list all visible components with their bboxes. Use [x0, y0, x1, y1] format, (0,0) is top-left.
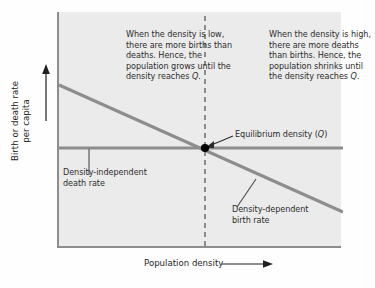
high-density-note-line4: population shrinks until [269, 61, 363, 71]
high-density-note-line2: there are more deaths [269, 40, 359, 50]
high-density-note-line5-pre: the density reaches [269, 71, 351, 81]
birth-rate-label-line2: birth rate [232, 215, 270, 225]
low-density-note-line5-post: . [198, 71, 201, 81]
low-density-note: When the density is low, there are more … [126, 29, 248, 82]
y-axis-title-line1: Birth or death rate [10, 56, 21, 186]
low-density-note-line3: deaths. Hence, the [126, 50, 202, 60]
death-rate-label-line2: death rate [63, 178, 105, 188]
equilibrium-label-pre: Equilibrium density ( [235, 129, 318, 139]
low-density-note-line5-pre: density reaches [126, 71, 192, 81]
equilibrium-point-marker [201, 144, 209, 152]
x-axis-arrow-icon [222, 258, 274, 270]
high-density-note-line3: than births. Hence, the [269, 50, 361, 60]
leader-line-birth-rate [237, 179, 256, 207]
death-rate-label-line1: Density-independent [63, 167, 147, 177]
y-axis-title-line2: per capita [21, 56, 32, 186]
y-axis-title: Birth or death rate per capita [10, 56, 32, 186]
low-density-note-line4: population grows until the [126, 61, 231, 71]
equilibrium-label: Equilibrium density (Q) [235, 129, 355, 140]
low-density-note-line2: there are more births than [126, 40, 232, 50]
death-rate-label: Density-independent death rate [63, 167, 183, 188]
high-density-note-line5-post: . [357, 71, 360, 81]
x-axis-title: Population density [144, 258, 223, 268]
high-density-note-line1: When the density is high, [269, 29, 371, 39]
y-axis-arrow-icon [41, 63, 51, 121]
birth-rate-label: Density-dependent birth rate [232, 204, 342, 225]
birth-rate-label-line1: Density-dependent [232, 204, 308, 214]
high-density-note: When the density is high, there are more… [269, 29, 375, 82]
equilibrium-label-post: ) [324, 129, 327, 139]
low-density-note-line1: When the density is low, [126, 29, 224, 39]
